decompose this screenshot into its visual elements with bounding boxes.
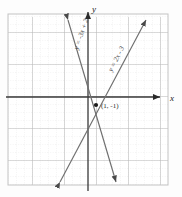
x-axis-label: x	[169, 93, 174, 103]
intersection-point	[94, 103, 98, 107]
intersection-point-label: (1, -1)	[101, 102, 119, 110]
y-axis-label: y	[91, 4, 96, 14]
graph-figure: y = -3x + 2 y = 2x - 3 (1, -1) x y	[0, 0, 182, 197]
coordinate-plane: y = -3x + 2 y = 2x - 3 (1, -1) x y	[0, 0, 182, 197]
